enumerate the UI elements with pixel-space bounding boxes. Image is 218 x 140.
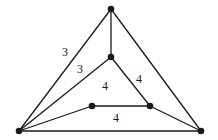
node-inner-left [89, 103, 96, 110]
edge-top-bottom-left [19, 9, 111, 131]
face-label-2: 3 [77, 62, 83, 76]
face-label-1: 3 [62, 45, 68, 59]
node-inner-right [147, 103, 154, 110]
node-mid [108, 54, 115, 61]
edge-mid-bottom-left [19, 57, 111, 131]
graph-diagram: 3 3 4 4 4 [0, 0, 218, 140]
face-label-3: 4 [102, 79, 108, 93]
edge-top-bottom-right [111, 9, 201, 131]
edge-inner-left-bottom-left [19, 106, 92, 131]
edge-inner-right-bottom-right [150, 106, 201, 131]
face-label-4: 4 [136, 72, 142, 86]
face-label-5: 4 [113, 111, 119, 125]
edge-mid-inner-right [111, 57, 150, 106]
node-bottom-right [198, 128, 205, 135]
node-bottom-left [16, 128, 23, 135]
node-top [108, 6, 115, 13]
edges [19, 9, 201, 131]
nodes [16, 6, 205, 135]
